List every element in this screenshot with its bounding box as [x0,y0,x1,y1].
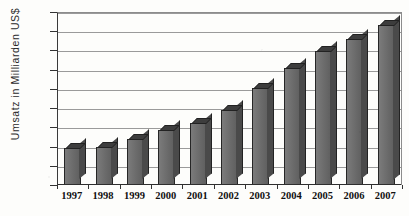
x-axis-tick-mark [245,185,246,189]
bar-side-face [267,78,274,179]
gridline [58,32,401,33]
x-axis-tick-mark [88,185,89,189]
x-axis-tick-label: 2007 [365,190,405,201]
bar [284,68,301,185]
bar [64,148,81,185]
bar [346,39,363,185]
plot-area [57,12,402,185]
y-axis-tick-mark [50,70,57,71]
y-axis-tick-mark [50,50,57,51]
x-axis-line [58,184,401,185]
x-axis-tick-mark [339,185,340,189]
bar [315,51,332,185]
x-axis-tick-mark [57,185,58,189]
bar-side-face [393,15,400,179]
bar-side-face [236,100,243,179]
y-axis-tick-mark [50,108,57,109]
bar [96,147,113,185]
bar-side-face [299,58,306,179]
bar [158,130,175,185]
x-axis-tick-mark [277,185,278,189]
y-axis-tick-mark [50,147,57,148]
x-axis-tick-mark [120,185,121,189]
bar [190,123,207,185]
y-axis-tick-mark [50,166,57,167]
y-axis-tick-mark [50,185,57,186]
gridline [58,13,401,14]
y-axis-tick-mark [50,127,57,128]
bar [252,88,269,185]
x-axis-tick-mark [308,185,309,189]
y-axis-tick-mark [50,31,57,32]
y-axis-title: Umsatz in Milliarden US$ [9,0,21,159]
bar-chart: Umsatz in Milliarden US$ 020406080100120… [0,0,409,216]
x-axis-tick-mark [182,185,183,189]
bar-side-face [361,29,368,179]
x-axis-tick-mark [151,185,152,189]
x-axis-tick-mark [371,185,372,189]
bar-side-face [330,42,337,179]
x-axis-tick-mark [214,185,215,189]
bar [378,25,395,186]
bar [221,110,238,185]
bar [127,139,144,185]
y-axis-tick-mark [50,89,57,90]
y-axis-tick-mark [50,12,57,13]
x-axis-tick-mark [402,185,403,189]
